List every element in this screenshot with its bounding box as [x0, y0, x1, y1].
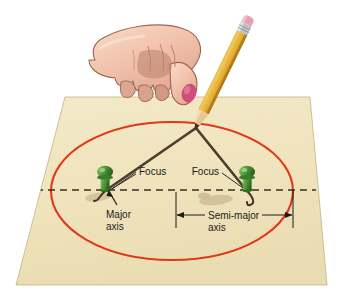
- semi-major-label-line1: Semi-major: [208, 210, 260, 221]
- ellipse-construction-figure: Focus Focus Major axis Semi-major axis: [0, 0, 346, 297]
- pushpin-right-shadow-head: [198, 193, 210, 200]
- ellipse-diagram-canvas: Focus Focus Major axis Semi-major axis: [0, 0, 346, 297]
- major-axis-label-line1: Major: [106, 209, 132, 220]
- focus-left-label: Focus: [139, 166, 166, 177]
- major-axis-label-line2: axis: [106, 221, 124, 232]
- hand-shadow-gap: [137, 50, 172, 79]
- semi-major-label-line2: axis: [208, 222, 226, 233]
- focus-right-label: Focus: [192, 166, 219, 177]
- paper-sheet: [16, 97, 327, 285]
